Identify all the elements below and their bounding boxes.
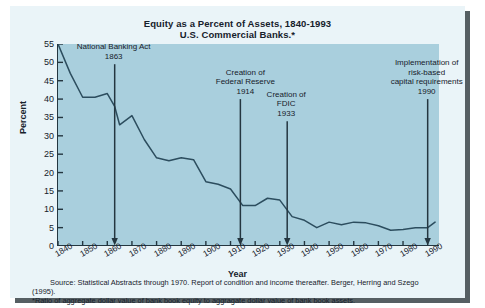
y-tick-label: 40: [44, 94, 54, 104]
annotation-national-banking-act: National Banking Act1863: [62, 42, 166, 61]
y-tick-label: 20: [44, 168, 54, 178]
y-tick-label: 25: [44, 149, 54, 159]
source-note: Source: Statistical Abstracts through 19…: [10, 278, 465, 296]
annotation-risk-based-capital: Implementation ofrisk-basedcapital requi…: [375, 58, 479, 96]
footnote-note: *Ratio of aggregate dollar value of bank…: [10, 296, 465, 305]
chart-title-block: Equity as a Percent of Assets, 1840-1993…: [10, 18, 465, 40]
y-tick-label: 5: [49, 223, 54, 233]
annotation-line: Federal Reserve: [193, 77, 297, 86]
annotation-line: 1990: [375, 87, 479, 96]
annotation-line: Creation of: [240, 90, 332, 99]
annotation-line: capital requirements: [375, 77, 479, 86]
y-tick-label: 30: [44, 131, 54, 141]
annotation-line: National Banking Act: [62, 42, 166, 51]
y-tick-label: 50: [44, 57, 54, 67]
y-tick-label: 45: [44, 76, 54, 86]
annotation-line: FDIC: [240, 99, 332, 108]
chart-notes: Source: Statistical Abstracts through 19…: [10, 278, 465, 305]
annotation-line: Implementation of: [375, 58, 479, 67]
y-tick-label: 15: [44, 186, 54, 196]
y-tick-label: 35: [44, 112, 54, 122]
y-tick-label: 55: [44, 39, 54, 49]
annotation-line: 1863: [62, 52, 166, 61]
annotation-creation-of-fdic: Creation ofFDIC1933: [240, 90, 332, 118]
chart-subtitle: U.S. Commercial Banks.*: [10, 29, 465, 40]
y-axis-label: Percent: [18, 101, 28, 134]
chart-figure: Equity as a Percent of Assets, 1840-1993…: [10, 6, 465, 298]
annotation-line: 1933: [240, 109, 332, 118]
annotation-line: Creation of: [193, 68, 297, 77]
chart-title: Equity as a Percent of Assets, 1840-1993: [10, 18, 465, 29]
annotation-line: risk-based: [375, 68, 479, 77]
y-tick-label: 10: [44, 204, 54, 214]
